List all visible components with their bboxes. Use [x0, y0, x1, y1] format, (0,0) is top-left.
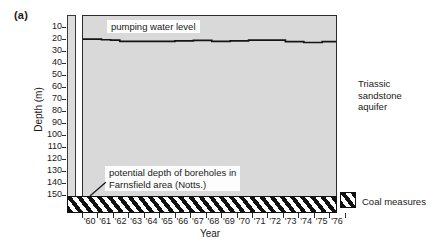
y-tick-label: 110 — [48, 142, 62, 151]
x-tick-label: '64 — [146, 217, 158, 226]
x-tick-mark — [329, 213, 330, 218]
y-tick-label: 150 — [47, 190, 62, 199]
x-tick-label: '69 — [223, 217, 235, 226]
y-tick-mark — [62, 111, 66, 112]
x-tick-label: '65 — [161, 217, 173, 226]
x-tick-mark — [252, 213, 253, 218]
borehole-annotation-line2: Farnsfield area (Notts.) — [109, 179, 236, 191]
y-tick-mark — [62, 123, 66, 124]
aquifer-label-line3: aquifer — [358, 101, 402, 113]
x-tick-mark — [82, 213, 83, 218]
x-tick-label: '76 — [331, 217, 343, 226]
coal-measures-label: Coal measures — [362, 196, 426, 207]
y-tick-mark — [62, 195, 66, 196]
x-tick-mark — [144, 213, 145, 218]
borehole-depth-annotation: potential depth of boreholes in Farnsfie… — [105, 166, 240, 191]
y-tick-label: 70 — [52, 94, 62, 103]
x-tick-mark — [221, 213, 222, 218]
x-tick-mark — [206, 213, 207, 218]
x-tick-label: '60 — [84, 217, 96, 226]
y-tick-label: 120 — [47, 154, 62, 163]
y-tick-label: 50 — [52, 70, 62, 79]
y-tick-label: 100 — [47, 130, 62, 139]
x-tick-label: '63 — [130, 217, 142, 226]
y-tick-label: 140 — [47, 178, 62, 187]
axis-spine-strip-outer — [67, 15, 76, 201]
aquifer-label-line2: sandstone — [358, 90, 402, 102]
x-tick-label: '71 — [254, 217, 266, 226]
aquifer-label-line1: Triassic — [358, 78, 402, 90]
x-tick-label: '62 — [115, 217, 127, 226]
y-tick-mark — [62, 63, 66, 64]
x-tick-mark — [237, 213, 238, 218]
y-tick-label: 10 — [52, 22, 62, 31]
pumping-water-level-annotation: pumping water level — [107, 20, 200, 33]
y-tick-label: 20 — [52, 34, 62, 43]
borehole-annotation-line1: potential depth of boreholes in — [109, 167, 236, 179]
y-tick-mark — [62, 99, 66, 100]
y-tick-mark — [62, 183, 66, 184]
y-tick-mark — [62, 147, 66, 148]
figure-panel-a: (a) Depth (m) 10203040506070809010011012… — [0, 0, 444, 242]
x-tick-label: '66 — [177, 217, 189, 226]
x-tick-label: '67 — [192, 217, 204, 226]
y-tick-mark — [62, 51, 66, 52]
x-tick-mark — [283, 213, 284, 218]
y-tick-mark — [62, 75, 66, 76]
x-tick-mark — [314, 213, 315, 218]
y-tick-mark — [62, 87, 66, 88]
x-tick-label: '72 — [269, 217, 281, 226]
x-tick-label: '68 — [207, 217, 219, 226]
y-tick-mark — [62, 39, 66, 40]
x-tick-label: '70 — [238, 217, 250, 226]
x-axis-label: Year — [82, 228, 338, 239]
y-tick-label: 40 — [52, 58, 62, 67]
x-tick-mark — [97, 213, 98, 218]
x-tick-mark — [267, 213, 268, 218]
y-tick-label: 90 — [52, 118, 62, 127]
x-tick-label: '75 — [316, 217, 328, 226]
coal-measures-band — [67, 196, 337, 213]
plot-area: pumping water level potential depth of b… — [82, 15, 337, 201]
y-tick-mark — [62, 159, 66, 160]
y-tick-label: 60 — [52, 82, 62, 91]
panel-label: (a) — [14, 9, 28, 21]
x-tick-mark — [128, 213, 129, 218]
x-tick-label: '74 — [300, 217, 312, 226]
x-tick-mark — [345, 213, 346, 218]
y-tick-label: 80 — [52, 106, 62, 115]
y-tick-label: 30 — [52, 46, 62, 55]
coal-measures-swatch — [340, 192, 356, 208]
pumping-water-level-line — [83, 39, 336, 42]
y-axis-tick-labels: 102030405060708090100110120130140150 — [32, 14, 62, 204]
x-tick-mark — [298, 213, 299, 218]
y-tick-mark — [62, 135, 66, 136]
x-tick-label: '73 — [285, 217, 297, 226]
x-tick-label: '61 — [99, 217, 111, 226]
y-tick-label: 130 — [47, 166, 62, 175]
aquifer-label: Triassic sandstone aquifer — [358, 78, 402, 113]
x-tick-mark — [159, 213, 160, 218]
x-axis: '60'61'62'63'64'65'66'67'68'69'70'71'72'… — [82, 213, 338, 227]
x-tick-mark — [175, 213, 176, 218]
x-tick-mark — [190, 213, 191, 218]
y-tick-mark — [62, 27, 66, 28]
y-tick-mark — [62, 171, 66, 172]
x-tick-mark — [113, 213, 114, 218]
